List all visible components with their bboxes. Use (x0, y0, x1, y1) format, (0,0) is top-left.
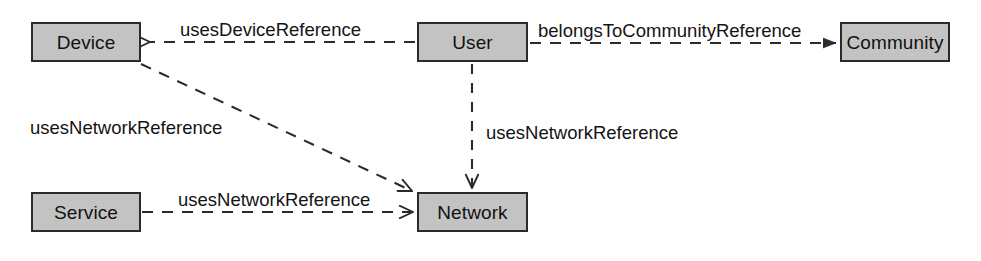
node-label-network: Network (437, 203, 507, 222)
node-label-community: Community (847, 33, 944, 52)
edge-label-belongs-to-community-reference: belongsToCommunityReference (538, 22, 801, 41)
node-label-user: User (452, 33, 493, 52)
node-label-service: Service (54, 203, 118, 222)
edge-label-uses-network-reference-service: usesNetworkReference (178, 191, 370, 210)
node-service[interactable]: Service (31, 192, 141, 232)
edge-label-uses-device-reference: usesDeviceReference (180, 21, 361, 40)
node-user[interactable]: User (417, 22, 528, 62)
node-label-device: Device (57, 33, 116, 52)
node-community[interactable]: Community (840, 22, 950, 62)
edge-label-uses-network-reference-user: usesNetworkReference (486, 124, 678, 143)
diagram-canvas: Device User Community Service Network us… (0, 0, 981, 261)
node-network[interactable]: Network (417, 192, 528, 232)
edge-label-uses-network-reference-device: usesNetworkReference (30, 119, 222, 138)
node-device[interactable]: Device (31, 22, 141, 62)
